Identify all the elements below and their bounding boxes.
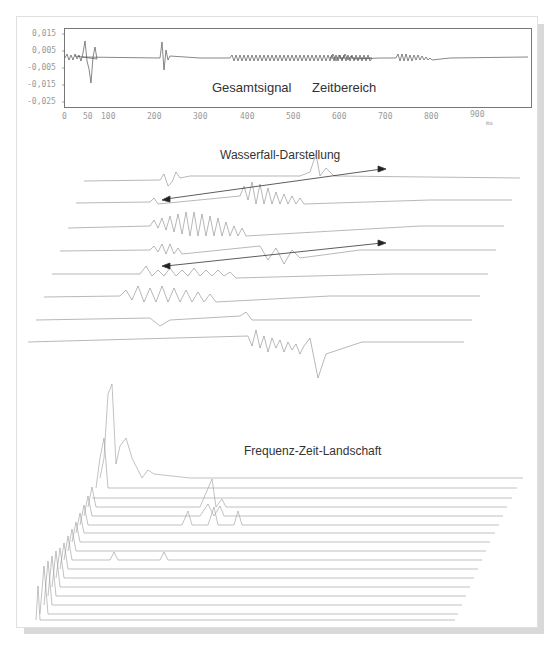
arrows — [162, 166, 386, 269]
landscape-traces — [36, 384, 523, 620]
plots-svg — [0, 0, 555, 645]
time-signal-trace — [65, 41, 528, 83]
waterfall-traces — [28, 154, 520, 378]
axis-ticks — [62, 34, 65, 102]
